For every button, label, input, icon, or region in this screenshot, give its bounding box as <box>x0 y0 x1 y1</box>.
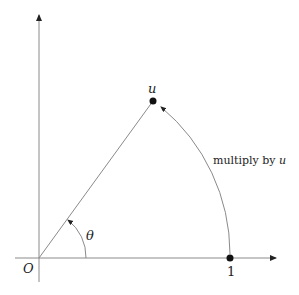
unit-point <box>227 255 234 262</box>
theta-label: θ <box>86 228 94 243</box>
unit-label: 1 <box>227 264 235 279</box>
u-label: u <box>148 81 156 96</box>
angle-arc <box>68 220 86 258</box>
rotation-arc <box>161 107 230 254</box>
ray-to-u <box>39 101 153 258</box>
u-point <box>150 98 157 105</box>
arc-caption: multiply by u <box>213 154 286 167</box>
complex-plane-diagram: O 1 u θ multiply by u <box>0 0 299 295</box>
origin-label: O <box>23 261 34 276</box>
